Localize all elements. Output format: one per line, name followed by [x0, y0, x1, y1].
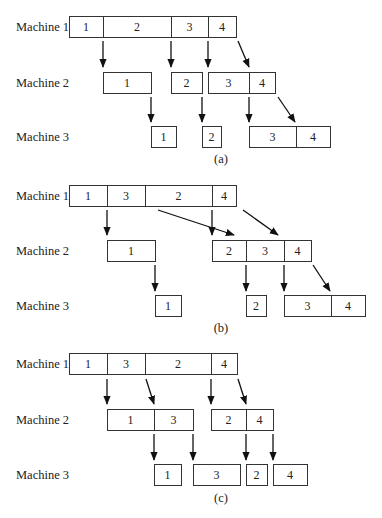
schedule-panel-a: Machine 1Machine 2Machine 3123412341234(…: [16, 17, 331, 167]
transfer-arrow-icon: [146, 379, 154, 404]
panel-caption: (b): [214, 321, 229, 335]
job-block: 34: [209, 73, 276, 94]
transfer-arrow-icon: [158, 210, 234, 235]
job-label: 3: [187, 20, 193, 34]
transfer-arrow-icon: [243, 210, 278, 235]
job-label: 4: [345, 299, 351, 313]
machine-label: Machine 1: [16, 20, 69, 34]
panel-caption: (a): [214, 152, 228, 166]
job-block: 1: [152, 127, 177, 148]
job-block: 1324: [70, 186, 237, 207]
job-label: 3: [262, 244, 268, 258]
job-block: 1324: [70, 354, 238, 375]
job-block: 1: [156, 296, 182, 317]
job-block: 2: [203, 127, 222, 148]
job-label: 2: [175, 357, 181, 371]
job-label: 1: [128, 244, 134, 258]
job-label: 3: [226, 76, 232, 90]
job-label: 3: [123, 357, 129, 371]
job-label: 4: [310, 130, 316, 144]
job-block: 234: [213, 241, 312, 262]
job-block-outline: [70, 17, 237, 38]
job-label: 2: [184, 76, 190, 90]
job-label: 4: [219, 20, 225, 34]
panel-caption: (c): [214, 491, 228, 505]
flow-shop-diagram: Machine 1Machine 2Machine 3123412341234(…: [0, 0, 382, 518]
schedule-panel-b: Machine 1Machine 2Machine 3132412341234(…: [16, 186, 366, 336]
job-label: 4: [287, 468, 293, 482]
machine-label: Machine 2: [16, 413, 69, 427]
job-block: 1: [104, 73, 152, 94]
job-block: 2: [247, 465, 268, 486]
job-block-outline: [285, 296, 366, 317]
job-label: 2: [253, 299, 259, 313]
transfer-arrow-icon: [278, 97, 295, 122]
transfer-arrow-icon: [238, 41, 249, 67]
job-label: 3: [270, 130, 276, 144]
transfer-arrow-icon: [313, 265, 330, 291]
job-label: 3: [214, 468, 220, 482]
job-block: 3: [194, 465, 241, 486]
job-block: 1: [108, 241, 156, 262]
machine-label: Machine 3: [16, 468, 69, 482]
job-block: 2: [247, 296, 267, 317]
job-label: 1: [124, 76, 130, 90]
job-block: 1: [155, 465, 182, 486]
job-label: 2: [209, 130, 215, 144]
job-label: 1: [165, 468, 171, 482]
job-label: 1: [85, 357, 91, 371]
transfer-arrow-icon: [238, 379, 246, 404]
job-label: 4: [221, 357, 227, 371]
machine-label: Machine 1: [16, 357, 69, 371]
machine-label: Machine 2: [16, 244, 69, 258]
job-label: 3: [305, 299, 311, 313]
job-label: 2: [134, 20, 140, 34]
job-block-outline: [209, 73, 276, 94]
job-label: 2: [226, 244, 232, 258]
job-block: 1234: [70, 17, 237, 38]
job-block-outline: [108, 410, 194, 431]
job-block: 4: [274, 465, 308, 486]
job-label: 4: [257, 413, 263, 427]
job-label: 2: [226, 413, 232, 427]
machine-label: Machine 2: [16, 76, 69, 90]
job-block: 24: [212, 410, 274, 431]
job-label: 3: [171, 413, 177, 427]
job-block: 34: [285, 296, 366, 317]
job-label: 2: [176, 189, 182, 203]
job-label: 1: [165, 299, 171, 313]
job-block: 2: [172, 73, 203, 94]
job-label: 1: [85, 189, 91, 203]
job-label: 1: [161, 130, 167, 144]
job-label: 4: [295, 244, 301, 258]
job-label: 2: [254, 468, 260, 482]
job-block: 13: [108, 410, 194, 431]
job-block-outline: [250, 127, 331, 148]
job-label: 3: [123, 189, 129, 203]
job-label: 1: [83, 20, 89, 34]
job-block-outline: [70, 186, 237, 207]
job-block: 34: [250, 127, 331, 148]
machine-label: Machine 3: [16, 299, 69, 313]
job-block-outline: [212, 410, 274, 431]
job-label: 4: [221, 189, 227, 203]
job-label: 1: [128, 413, 134, 427]
machine-label: Machine 3: [16, 130, 69, 144]
job-label: 4: [259, 76, 265, 90]
job-block-outline: [70, 354, 238, 375]
schedule-panel-c: Machine 1Machine 2Machine 3132413241324(…: [16, 354, 308, 506]
machine-label: Machine 1: [16, 189, 69, 203]
